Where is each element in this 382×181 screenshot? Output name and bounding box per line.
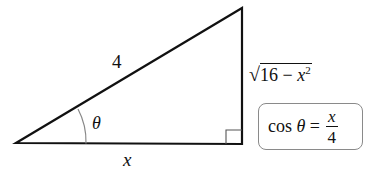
- radicand-number: 16: [260, 65, 278, 85]
- right-angle-marker: [226, 130, 242, 144]
- fraction: x 4: [326, 108, 338, 146]
- minus-operator: −: [282, 65, 292, 85]
- equals-sign: =: [310, 116, 320, 137]
- exponent: 2: [305, 64, 311, 76]
- triangle: [16, 8, 242, 144]
- opposite-side-label: √16 − x2: [249, 63, 312, 84]
- radicand-variable: x: [297, 65, 305, 85]
- angle-label: θ: [92, 114, 101, 132]
- cos-theta: θ: [297, 116, 306, 137]
- radicand: 16 − x2: [260, 63, 312, 84]
- cos-function: cos: [268, 116, 292, 137]
- fraction-denominator: 4: [328, 127, 337, 146]
- adjacent-side-label: x: [123, 150, 131, 169]
- triangle-diagram: [0, 0, 382, 181]
- angle-arc: [78, 109, 86, 144]
- radical-sign: √: [249, 63, 260, 85]
- hypotenuse-label: 4: [112, 52, 122, 71]
- cosine-identity-box: cos θ = x 4: [258, 103, 363, 150]
- fraction-numerator: x: [326, 108, 338, 127]
